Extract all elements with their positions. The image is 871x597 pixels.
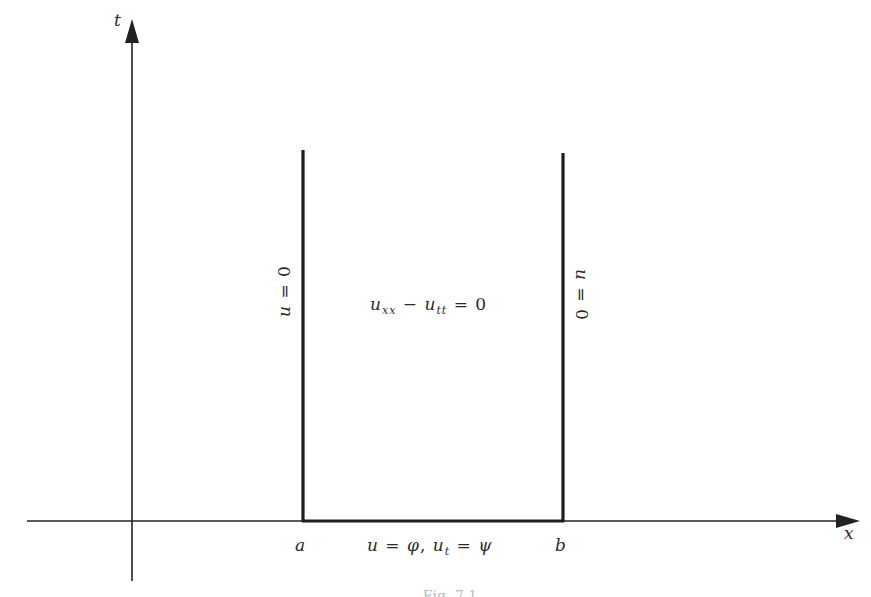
pde-equation: uxx − utt = 0 bbox=[370, 294, 487, 317]
pde-minus: − bbox=[403, 294, 418, 314]
bc-left-eq: = bbox=[274, 283, 294, 298]
bc-right-u: u bbox=[572, 269, 592, 281]
ic-ut-sub: t bbox=[445, 545, 450, 558]
bc-left-u: u bbox=[274, 305, 294, 317]
t-axis-label: t bbox=[114, 10, 121, 30]
pde-sub-tt: tt bbox=[436, 304, 447, 317]
pde-u2: u bbox=[424, 294, 436, 314]
bc-right-val: 0 bbox=[572, 309, 592, 321]
ic-eq2: = bbox=[457, 535, 472, 555]
ic-comma: , bbox=[420, 535, 426, 555]
left-boundary-condition: u = 0 bbox=[274, 259, 296, 323]
point-a-label: a bbox=[295, 535, 305, 555]
pde-equals: = bbox=[454, 294, 469, 314]
diagram-canvas: t x a b u = 0 u = 0 uxx − utt = 0 u = φ,… bbox=[0, 0, 871, 597]
bc-right-eq: = bbox=[572, 287, 592, 302]
figure-caption: Fig. 7.1 bbox=[375, 588, 525, 597]
bc-left-val: 0 bbox=[274, 265, 294, 277]
ic-eq1: = bbox=[385, 535, 400, 555]
ic-ut: u bbox=[433, 535, 445, 555]
pde-rhs: 0 bbox=[475, 294, 487, 314]
pde-sub-xx: xx bbox=[382, 304, 396, 317]
ic-u: u bbox=[367, 535, 379, 555]
ic-psi: ψ bbox=[478, 535, 492, 555]
pde-u1: u bbox=[370, 294, 382, 314]
t-axis-arrowhead-icon bbox=[125, 19, 139, 43]
point-b-label: b bbox=[555, 535, 566, 555]
initial-condition: u = φ, ut = ψ bbox=[367, 535, 493, 558]
x-axis-label: x bbox=[844, 523, 854, 543]
ic-phi: φ bbox=[407, 535, 420, 555]
right-boundary-condition: u = 0 bbox=[570, 263, 592, 327]
